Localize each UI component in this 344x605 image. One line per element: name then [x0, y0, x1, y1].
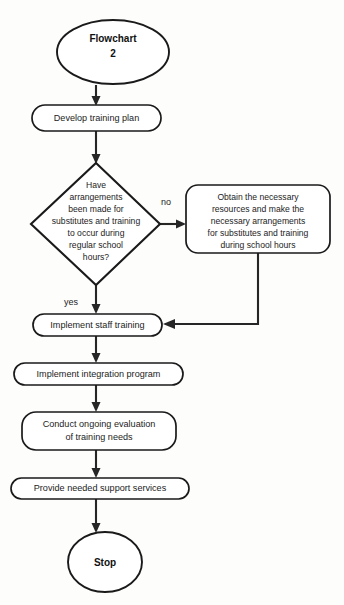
node-start-label-line1: Flowchart: [89, 33, 137, 44]
node-obtain-resources-label-line2: resources and make the: [212, 204, 304, 214]
node-conduct-evaluation[interactable]: Conduct ongoing evaluation of training n…: [22, 412, 176, 450]
node-conduct-evaluation-label-line1: Conduct ongoing evaluation: [43, 419, 156, 429]
node-conduct-evaluation-label-line2: of training needs: [65, 432, 133, 442]
node-stop-terminator[interactable]: Stop: [68, 532, 142, 592]
node-decision-label-line4: substitutes and training: [52, 216, 141, 226]
node-implement-integration-program[interactable]: Implement integration program: [14, 363, 183, 385]
node-implement-integration-program-label: Implement integration program: [37, 369, 161, 379]
node-decision-label-line5: to occur during: [68, 228, 125, 238]
node-obtain-resources-label-line3: necessary arrangements: [211, 216, 306, 226]
connector-obtain-resources-loopback: [163, 253, 258, 329]
node-decision-label-line7: hours?: [83, 252, 109, 262]
connector-integration-to-evaluation: [92, 384, 101, 412]
node-obtain-resources[interactable]: Obtain the necessary resources and make …: [186, 185, 330, 253]
node-provide-support-services-label: Provide needed support services: [34, 483, 167, 493]
node-start-terminator[interactable]: Flowchart 2: [57, 20, 169, 84]
node-develop-training-plan[interactable]: Develop training plan: [32, 105, 161, 131]
node-provide-support-services[interactable]: Provide needed support services: [11, 478, 189, 499]
node-obtain-resources-label-line4: for substitutes and training: [208, 228, 309, 238]
flowchart-canvas: Flowchart 2 Develop training plan Have a…: [0, 0, 344, 605]
node-decision-arrangements[interactable]: Have arrangements been made for substitu…: [31, 163, 160, 285]
edge-label-yes: yes: [64, 297, 79, 307]
connector-decision-yes-to-implement-staff-training: [92, 285, 101, 314]
node-start-label-line2: 2: [110, 48, 116, 59]
node-decision-label-line1: Have: [86, 180, 106, 190]
connector-develop-plan-to-decision: [92, 131, 101, 164]
node-implement-staff-training[interactable]: Implement staff training: [33, 314, 162, 336]
node-obtain-resources-label-line1: Obtain the necessary: [217, 192, 299, 202]
connector-decision-no-to-obtain-resources: [160, 220, 186, 229]
node-decision-label-line3: been made for: [68, 204, 124, 214]
connector-staff-training-to-integration: [92, 335, 101, 363]
node-implement-staff-training-label: Implement staff training: [50, 320, 144, 330]
connector-start-to-develop-plan: [92, 85, 101, 106]
node-decision-label-line6: regular school: [69, 240, 123, 250]
node-decision-label-line2: arrangements: [69, 192, 122, 202]
node-stop-label: Stop: [94, 557, 116, 568]
edge-label-no: no: [161, 197, 171, 207]
node-develop-training-plan-label: Develop training plan: [54, 113, 139, 123]
connector-evaluation-to-support: [92, 450, 101, 478]
connector-support-to-stop: [92, 498, 101, 533]
node-obtain-resources-label-line5: during school hours: [220, 240, 295, 250]
flowchart-svg: Flowchart 2 Develop training plan Have a…: [0, 0, 344, 605]
